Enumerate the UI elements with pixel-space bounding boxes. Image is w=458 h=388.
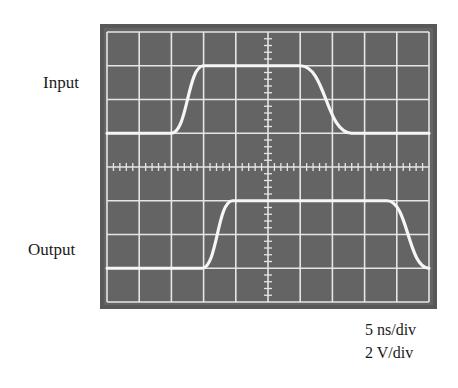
voltage-scale: 2 V/div	[365, 341, 416, 364]
output-label: Output	[28, 240, 75, 260]
scale-info: 5 ns/div 2 V/div	[365, 318, 416, 364]
input-label: Input	[43, 73, 79, 93]
time-scale: 5 ns/div	[365, 318, 416, 341]
